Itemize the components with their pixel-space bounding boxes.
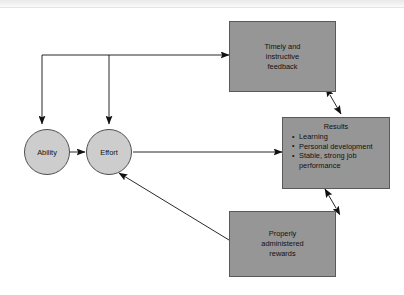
feedback-line-2: instructive <box>266 52 299 62</box>
node-effort-label: Effort <box>100 148 118 157</box>
node-effort[interactable]: Effort <box>86 129 132 175</box>
node-ability[interactable]: Ability <box>24 129 70 175</box>
diagram-canvas: Ability Effort Timely and instructive fe… <box>0 0 404 295</box>
feedback-line-1: Timely and <box>265 42 301 52</box>
results-bullet-item: Stable, strong job performance <box>292 151 389 170</box>
rewards-line-1: Properly <box>269 229 297 239</box>
edge-feedback-to-ability <box>42 55 109 124</box>
results-title: Results <box>283 122 389 132</box>
results-bullet-item: Personal development <box>292 142 389 152</box>
edge-feedback-results-bidirectional <box>330 95 341 114</box>
node-ability-label: Ability <box>37 148 57 157</box>
edge-results-rewards-bidirectional <box>325 189 336 208</box>
node-timely-instructive-feedback[interactable]: Timely and instructive feedback <box>229 21 336 92</box>
results-bullet-item: Learning <box>292 132 389 142</box>
feedback-line-3: feedback <box>268 62 298 72</box>
node-properly-administered-rewards[interactable]: Properly administered rewards <box>229 211 336 277</box>
rewards-line-2: administered <box>261 239 303 249</box>
node-results[interactable]: Results Learning Personal development St… <box>282 117 390 189</box>
results-bullet-list: Learning Personal development Stable, st… <box>283 132 389 170</box>
rewards-line-3: rewards <box>269 249 295 259</box>
edge-rewards-to-effort <box>119 173 229 240</box>
